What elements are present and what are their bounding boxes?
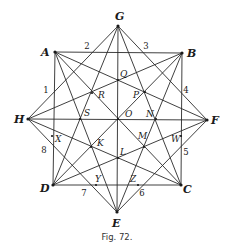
side-number-4: 4	[183, 85, 188, 95]
vertex-label-H: H	[13, 113, 25, 126]
intersection-label-L: L	[119, 147, 126, 157]
side-number-8: 8	[41, 145, 46, 155]
intersection-point-R	[91, 92, 93, 94]
side-number-6: 6	[139, 188, 144, 198]
vertex-point-B	[180, 51, 183, 54]
vertex-point-D	[51, 183, 54, 186]
intersection-label-Q: Q	[120, 69, 128, 79]
line-FE	[117, 120, 207, 212]
intersection-label-Z: Z	[129, 174, 137, 184]
vertex-label-A: A	[40, 46, 50, 59]
vertex-point-A	[53, 50, 56, 53]
side-number-7: 7	[81, 188, 86, 198]
vertex-point-E	[115, 210, 118, 213]
line-HC	[28, 119, 181, 185]
intersection-label-N: N	[145, 109, 155, 119]
line-BC	[181, 53, 182, 185]
intersection-point-L	[117, 157, 119, 159]
intersection-label-Y: Y	[95, 174, 102, 184]
intersection-label-X: X	[54, 134, 62, 144]
intersection-point-O	[117, 118, 119, 120]
vertex-point-G	[116, 24, 119, 27]
vertex-label-B: B	[186, 47, 196, 60]
intersection-point-K	[90, 146, 92, 148]
intersection-label-M: M	[137, 131, 148, 141]
intersection-label-W: W	[171, 134, 181, 144]
intersection-label-S: S	[84, 108, 90, 118]
line-GH	[28, 26, 118, 119]
vertex-label-F: F	[210, 114, 220, 127]
intersection-point-Q	[117, 79, 119, 81]
vertex-label-C: C	[183, 183, 192, 196]
vertex-label-D: D	[39, 182, 50, 195]
intersection-label-K: K	[96, 138, 105, 148]
intersection-point-P	[144, 91, 146, 93]
line-GC	[118, 26, 181, 185]
line-DA	[53, 52, 55, 185]
intersection-point-S	[79, 118, 81, 120]
side-number-3: 3	[143, 41, 148, 51]
vertex-label-E: E	[111, 217, 121, 230]
vertex-point-F	[205, 118, 208, 121]
figure-caption: Fig. 72.	[102, 232, 133, 242]
side-number-2: 2	[84, 41, 89, 51]
side-number-5: 5	[183, 147, 188, 157]
vertex-point-H	[26, 117, 29, 120]
intersection-point-M	[143, 146, 145, 148]
intersection-label-O: O	[125, 109, 133, 119]
intersection-label-R: R	[97, 90, 105, 100]
line-AB	[55, 52, 182, 53]
side-number-1: 1	[43, 85, 48, 95]
intersection-point-N	[155, 118, 157, 120]
intersection-point-Y	[95, 184, 97, 186]
intersection-point-Z	[137, 184, 139, 186]
intersection-point-X	[51, 135, 53, 137]
vertex-label-G: G	[115, 10, 124, 23]
intersection-label-P: P	[132, 90, 140, 100]
star-octagon-diagram: GABHFDCE QRPSONXKMWLYZ 12345678 Fig. 72.	[0, 0, 231, 250]
